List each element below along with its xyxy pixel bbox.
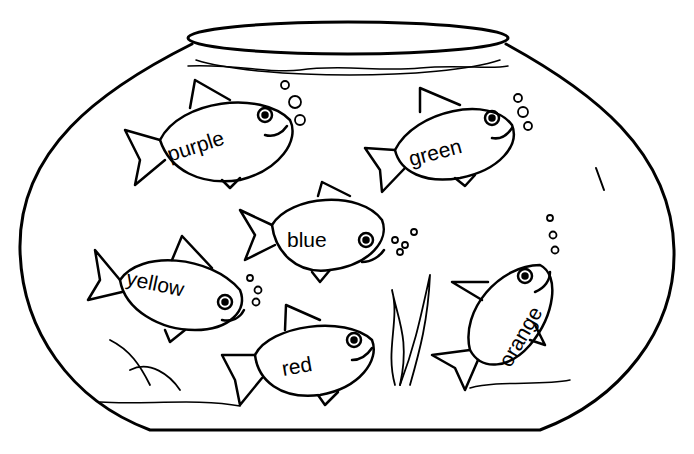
- fish-label-purple: purple: [164, 126, 227, 166]
- fishbowl: [20, 22, 674, 430]
- fish-blue: blue: [240, 182, 417, 282]
- gravel: [100, 380, 570, 406]
- fish-yellow: yellow: [88, 236, 262, 342]
- fish-purple: purple: [125, 80, 305, 188]
- fish-orange: orange: [432, 215, 559, 390]
- fish-label-yellow: yellow: [124, 266, 187, 301]
- fish-label-green: green: [406, 134, 464, 170]
- fish-red: red: [222, 305, 374, 405]
- fish-label-orange: orange: [494, 302, 547, 370]
- fish-green: green: [365, 88, 532, 192]
- fish-label-blue: blue: [287, 228, 327, 251]
- fish-label-red: red: [280, 352, 314, 380]
- fishbowl-illustration: purple green blue yellow: [0, 0, 694, 454]
